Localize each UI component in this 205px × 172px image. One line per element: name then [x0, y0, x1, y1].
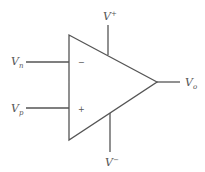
inverting-sign: −	[78, 58, 85, 67]
label-vplus: V+	[103, 10, 117, 23]
op-amp-triangle	[69, 35, 157, 140]
noninverting-sign: +	[78, 105, 85, 114]
label-vp: Vp	[11, 102, 24, 117]
op-amp-diagram: − + Vn Vp Vo V+ V−	[0, 0, 205, 172]
label-vminus: V−	[105, 156, 119, 169]
label-vn: Vn	[11, 55, 24, 70]
label-vo: Vo	[185, 76, 197, 91]
